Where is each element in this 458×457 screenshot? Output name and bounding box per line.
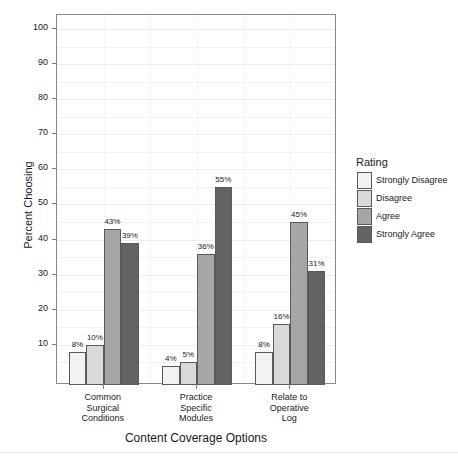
x-category-label: Relate to Operative Log <box>234 392 344 424</box>
chart-canvas: Percent Choosing 102030405060708090100 8… <box>0 0 458 457</box>
legend-swatch-icon <box>357 208 372 225</box>
bar-agree <box>290 222 308 385</box>
gridline-horizontal <box>57 117 335 118</box>
gridline-horizontal <box>57 152 335 153</box>
y-tick-label: 80 <box>22 93 48 102</box>
bar-strongly-agree <box>121 243 139 385</box>
gridline-horizontal <box>57 134 335 135</box>
bar-agree <box>197 254 215 386</box>
bottom-divider <box>0 452 458 453</box>
bar-value-label: 55% <box>209 176 239 184</box>
gridline-horizontal <box>57 82 335 83</box>
bar-strongly-disagree <box>255 352 273 385</box>
legend-swatch-icon <box>357 226 372 243</box>
bar-disagree <box>273 324 291 385</box>
gridline-horizontal <box>57 64 335 65</box>
legend-item-label: Strongly Disagree <box>376 175 448 185</box>
plot-area: 8%10%43%39%4%5%36%55%8%16%45%31% <box>56 14 336 384</box>
legend-item[interactable]: Strongly Agree <box>352 226 456 244</box>
legend-item[interactable]: Disagree <box>352 190 456 208</box>
legend-item-label: Disagree <box>376 193 412 203</box>
gridline-horizontal <box>57 29 335 30</box>
bar-value-label: 39% <box>115 232 145 240</box>
y-tick-label: 20 <box>22 304 48 313</box>
x-tick-mark <box>196 384 197 389</box>
legend-items: Strongly DisagreeDisagreeAgreeStrongly A… <box>352 172 456 244</box>
gridline-horizontal <box>57 187 335 188</box>
bar-strongly-disagree <box>162 366 180 385</box>
gridline-vertical <box>244 15 245 383</box>
x-axis-title: Content Coverage Options <box>56 431 336 445</box>
gridline-horizontal <box>57 204 335 205</box>
x-tick-mark <box>289 384 290 389</box>
y-tick-label: 50 <box>22 198 48 207</box>
gridline-horizontal <box>57 47 335 48</box>
y-tick-label: 90 <box>22 58 48 67</box>
legend-item-label: Agree <box>376 211 400 221</box>
y-tick-label: 60 <box>22 163 48 172</box>
legend-swatch-icon <box>357 190 372 207</box>
legend-item-label: Strongly Agree <box>376 229 435 239</box>
bar-agree <box>104 229 122 385</box>
gridline-vertical <box>150 15 151 383</box>
bar-disagree <box>86 345 104 385</box>
gridline-horizontal <box>57 169 335 170</box>
y-tick-label: 70 <box>22 128 48 137</box>
bar-strongly-disagree <box>69 352 87 385</box>
bar-strongly-agree <box>308 271 326 385</box>
legend-item[interactable]: Strongly Disagree <box>352 172 456 190</box>
bar-value-label: 45% <box>284 211 314 219</box>
bar-strongly-agree <box>215 187 233 385</box>
legend: Rating Strongly DisagreeDisagreeAgreeStr… <box>352 156 456 244</box>
x-tick-mark <box>103 384 104 389</box>
legend-item[interactable]: Agree <box>352 208 456 226</box>
y-tick-label: 10 <box>22 339 48 348</box>
y-tick-label: 30 <box>22 269 48 278</box>
bar-value-label: 43% <box>98 218 128 226</box>
legend-title: Rating <box>356 156 456 168</box>
gridline-horizontal <box>57 99 335 100</box>
bar-value-label: 31% <box>302 260 332 268</box>
bar-disagree <box>180 362 198 385</box>
y-tick-label: 40 <box>22 234 48 243</box>
y-tick-label: 100 <box>22 23 48 32</box>
legend-swatch-icon <box>357 172 372 189</box>
